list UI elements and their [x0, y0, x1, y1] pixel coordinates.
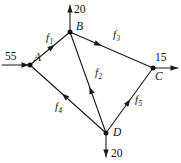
edge-f2 [70, 32, 106, 133]
arrowhead-f5 [124, 99, 131, 107]
node-dot-D [104, 131, 109, 136]
flow-label-f2: f2 [95, 66, 102, 81]
flow-value-outflow-b: 20 [74, 3, 86, 15]
edges-group [30, 32, 153, 133]
node-label-A: A [33, 51, 42, 63]
node-label-D: D [112, 126, 122, 138]
flow-label-subscript-f2: 2 [98, 73, 102, 81]
node-label-C: C [155, 70, 163, 82]
flow-label-f5: f5 [135, 93, 142, 108]
flow-label-subscript-f5: 5 [138, 100, 142, 108]
arrowhead-outflow-d [103, 150, 108, 158]
flow-network-diagram: f1f3f2f4f555201520ABCD [0, 0, 181, 163]
flow-label-subscript-f1: 1 [49, 38, 53, 46]
arrowhead-f2 [89, 87, 94, 95]
flow-network-canvas: f1f3f2f4f555201520ABCD [0, 0, 181, 163]
flow-value-inflow-a: 55 [5, 50, 17, 62]
flow-label-subscript-f3: 3 [115, 35, 120, 43]
arrowhead-outflow-b [67, 5, 72, 13]
edge-f3 [70, 32, 153, 68]
external-flows-group [2, 5, 178, 157]
flow-label-subscript-f4: 4 [58, 107, 62, 115]
flow-label-f4: f4 [55, 100, 62, 115]
flow-value-outflow-c: 15 [155, 51, 167, 63]
node-label-B: B [76, 20, 83, 32]
labels-group: f1f3f2f4f555201520ABCD [5, 3, 167, 159]
flow-value-outflow-d: 20 [111, 147, 123, 159]
arrowhead-outflow-c [171, 65, 179, 70]
flow-label-f1: f1 [46, 31, 53, 46]
node-dot-A [28, 63, 33, 68]
node-dot-B [68, 30, 73, 35]
flow-label-f3: f3 [113, 28, 120, 43]
arrowhead-f3 [94, 40, 102, 45]
